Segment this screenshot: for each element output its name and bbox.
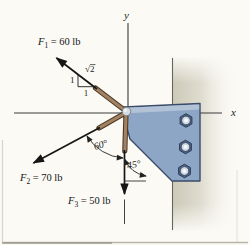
bolt-center (184, 119, 188, 123)
f1-value: = 60 lb (51, 36, 81, 47)
wall-bottom-fade (172, 204, 235, 231)
slope-run-label: 1 (84, 88, 89, 98)
f3-value: = 50 lb (81, 195, 111, 206)
bolt-middle (180, 140, 192, 154)
slope-rise-label: 1 (70, 75, 75, 85)
y-axis-label: y (123, 9, 129, 21)
f2-subscript: 2 (26, 177, 30, 186)
pin (122, 107, 131, 116)
f2-value: = 70 lb (33, 172, 63, 183)
rod-f3 (125, 113, 126, 151)
bolt-bottom (179, 164, 191, 178)
bolt-center (183, 169, 187, 173)
bolt-center (184, 145, 188, 149)
force-bracket-figure: x y (0, 0, 250, 245)
wall-top-fade (172, 57, 235, 83)
pin-highlight (124, 109, 127, 112)
f1-subscript: 1 (44, 41, 48, 50)
slope-hypotenuse-label: √2 (85, 64, 94, 74)
x-axis-label: x (230, 106, 236, 118)
diagram-canvas: x y (0, 0, 250, 245)
f3-subscript: 3 (74, 200, 78, 209)
bolt-top (180, 114, 192, 128)
